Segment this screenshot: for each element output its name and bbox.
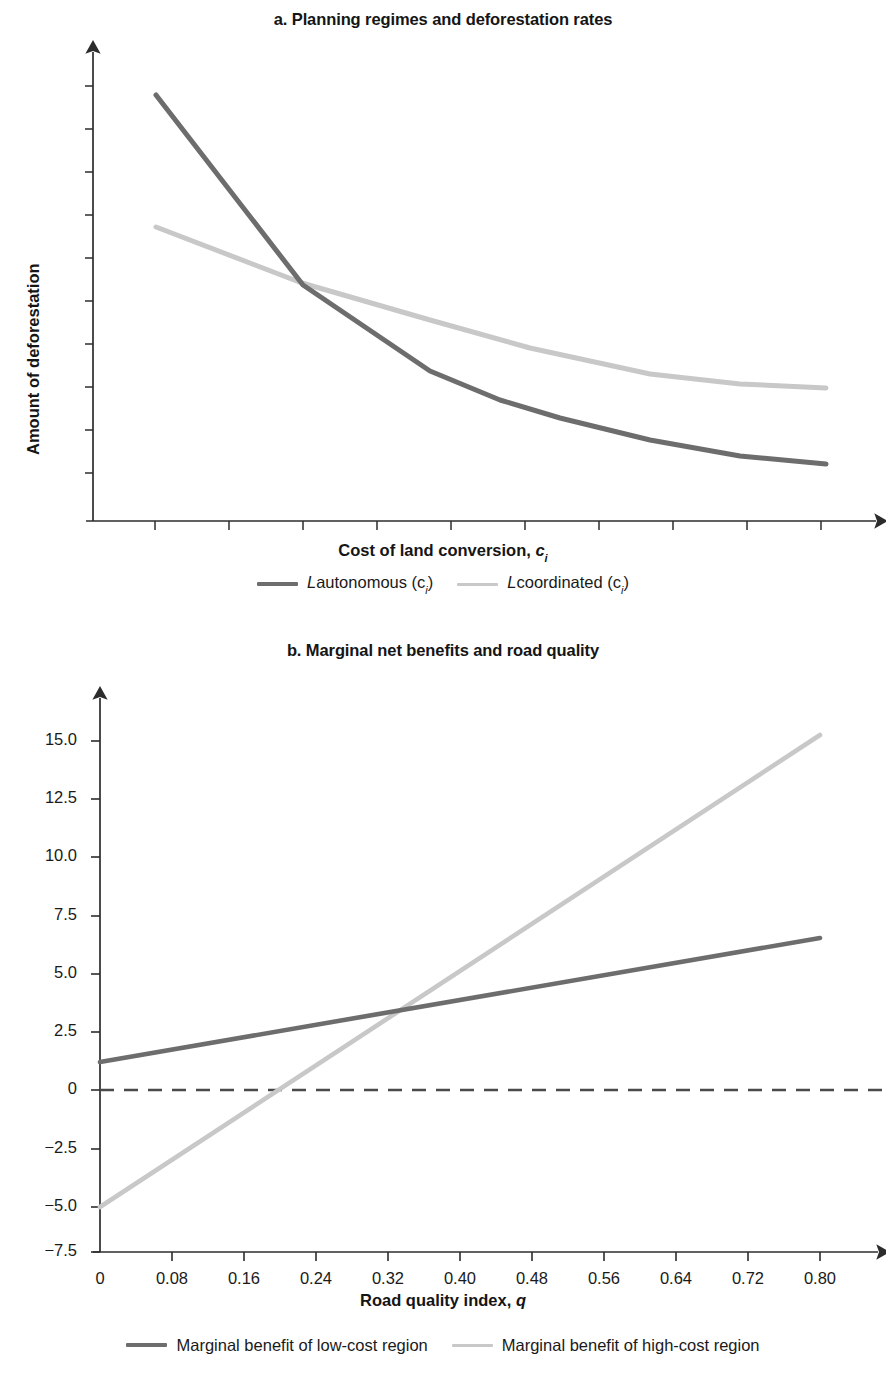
panel-b-xtick-056: 0.56 [574, 1269, 634, 1288]
panel-b-xtick-040: 0.40 [430, 1269, 490, 1288]
panel-a-x-ticks [155, 521, 821, 530]
panel-a-legend-item-coordinated[interactable]: Lcoordinated (ci) [457, 574, 629, 594]
panel-b-plot [0, 620, 886, 1320]
panel-a-x-axis-label: Cost of land conversion, ci [0, 541, 886, 562]
panel-a-line-coordinated [156, 227, 826, 388]
panel-b-xtick-048: 0.48 [502, 1269, 562, 1288]
panel-b-ytick-7-5: 7.5 [22, 905, 77, 924]
panel-b-ytick-10: 10.0 [22, 846, 77, 865]
panel-b-x-axis-label: Road quality index, q [0, 1291, 886, 1310]
panel-b-ytick-15: 15.0 [22, 730, 77, 749]
panel-b-ytick-neg5: −5.0 [14, 1196, 77, 1215]
panel-b-xtick-072: 0.72 [718, 1269, 778, 1288]
panel-b-x-axis-label-text: Road quality index, [360, 1291, 516, 1309]
panel-a-y-axis [85, 52, 93, 521]
legend-line-swatch-coordinated-icon [457, 583, 498, 586]
legend-line-swatch-high-cost-icon [452, 1344, 493, 1347]
panel-b-line-high-cost [100, 735, 820, 1207]
panel-a-legend: Lautonomous (ci) Lcoordinated (ci) [0, 574, 886, 594]
panel-b-legend-label-low-cost: Marginal benefit of low-cost region [176, 1337, 427, 1354]
panel-b-legend-label-high-cost: Marginal benefit of high-cost region [502, 1337, 760, 1354]
panel-b-y-axis [91, 698, 100, 1252]
panel-b-x-axis-var: q [516, 1291, 526, 1309]
panel-b-xtick-080: 0.80 [790, 1269, 850, 1288]
panel-a-x-axis [86, 521, 876, 530]
panel-a-x-axis-var: c [535, 541, 544, 559]
panel-b-y-ticks [91, 741, 100, 1252]
panel-b-xtick-032: 0.32 [358, 1269, 418, 1288]
panel-b-xtick-064: 0.64 [646, 1269, 706, 1288]
legend-line-swatch-autonomous-icon [257, 582, 298, 586]
panel-a-x-axis-label-text: Cost of land conversion, [338, 541, 535, 559]
panel-b-ytick-0: 0 [22, 1079, 77, 1098]
panel-a-y-ticks [85, 86, 93, 473]
panel-a-legend-label-autonomous: Lautonomous (ci) [307, 574, 433, 594]
panel-a-plot [0, 0, 886, 560]
legend-line-swatch-low-cost-icon [126, 1343, 167, 1347]
panel-b-xtick-0: 0 [70, 1269, 130, 1288]
panel-b-ytick-5: 5.0 [22, 963, 77, 982]
panel-b-ytick-neg2-5: −2.5 [14, 1138, 77, 1157]
panel-b-ytick-2-5: 2.5 [22, 1021, 77, 1040]
panel-b-legend-item-low-cost[interactable]: Marginal benefit of low-cost region [126, 1337, 427, 1354]
panel-b-xtick-016: 0.16 [214, 1269, 274, 1288]
panel-b-x-ticks [172, 1252, 820, 1261]
panel-a-x-axis-subscript: i [545, 552, 548, 564]
panel-b-legend-item-high-cost[interactable]: Marginal benefit of high-cost region [452, 1337, 760, 1354]
panel-b-marginal-net-benefits: b. Marginal net benefits and road qualit… [0, 620, 886, 1382]
panel-b-xtick-008: 0.08 [142, 1269, 202, 1288]
panel-a-planning-regimes: a. Planning regimes and deforestation ra… [0, 0, 886, 620]
panel-b-line-low-cost [100, 938, 820, 1062]
panel-b-xtick-024: 0.24 [286, 1269, 346, 1288]
panel-b-legend: Marginal benefit of low-cost region Marg… [0, 1337, 886, 1354]
panel-a-legend-item-autonomous[interactable]: Lautonomous (ci) [257, 574, 433, 594]
panel-b-ytick-neg7-5: −7.5 [14, 1241, 77, 1260]
panel-b-x-axis [93, 1252, 878, 1261]
panel-b-ytick-12-5: 12.5 [22, 788, 77, 807]
panel-a-legend-label-coordinated: Lcoordinated (ci) [507, 574, 629, 594]
panel-a-line-autonomous [156, 95, 826, 464]
